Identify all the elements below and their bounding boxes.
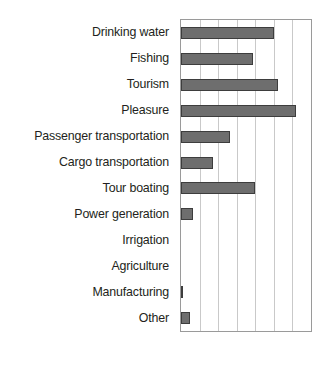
bar-row [181, 46, 311, 72]
category-label-agriculture: Agriculture [111, 260, 169, 273]
bar-row [181, 98, 311, 124]
category-label-fishing: Fishing [130, 52, 169, 65]
category-label-row: Tour boating [0, 175, 175, 201]
category-label-row: Manufacturing [0, 280, 175, 306]
category-label-tourism: Tourism [127, 78, 169, 91]
category-label-row: Passenger transportation [0, 123, 175, 149]
bar-chart-figure: Drinking water Fishing Tourism Pleasure … [0, 0, 331, 369]
gridline [311, 20, 312, 331]
plot-area [180, 19, 312, 332]
category-label-irrigation: Irrigation [122, 234, 169, 247]
category-label-row: Fishing [0, 45, 175, 71]
category-label-row: Pleasure [0, 97, 175, 123]
bar-row [181, 176, 311, 202]
bar-cargo-transportation [181, 157, 213, 169]
category-label-row: Tourism [0, 71, 175, 97]
category-label-power-generation: Power generation [74, 208, 169, 221]
bar-row [181, 124, 311, 150]
bar-row [181, 305, 311, 331]
category-label-passenger-transportation: Passenger transportation [34, 130, 169, 143]
category-label-row: Other [0, 306, 175, 332]
category-label-other: Other [139, 312, 169, 325]
bar-pleasure [181, 105, 296, 117]
category-label-row: Irrigation [0, 228, 175, 254]
bar-row [181, 150, 311, 176]
category-label-manufacturing: Manufacturing [92, 286, 169, 299]
bar-power-generation [181, 208, 193, 220]
bar-row [181, 20, 311, 46]
bar-row [181, 253, 311, 279]
category-label-row: Power generation [0, 202, 175, 228]
bar-passenger-transportation [181, 131, 230, 143]
bar-row [181, 201, 311, 227]
category-axis-labels: Drinking water Fishing Tourism Pleasure … [0, 19, 175, 332]
category-label-tour-boating: Tour boating [103, 182, 169, 195]
bar-tourism [181, 79, 278, 91]
bars-layer [181, 20, 311, 331]
bar-fishing [181, 53, 253, 65]
category-label-row: Drinking water [0, 19, 175, 45]
category-label-pleasure: Pleasure [121, 104, 169, 117]
category-label-row: Cargo transportation [0, 149, 175, 175]
bar-other [181, 312, 190, 324]
bar-row [181, 279, 311, 305]
bar-row [181, 227, 311, 253]
bar-drinking-water [181, 27, 274, 39]
category-label-cargo-transportation: Cargo transportation [59, 156, 169, 169]
category-label-drinking-water: Drinking water [92, 26, 169, 39]
bar-row [181, 72, 311, 98]
bar-tour-boating [181, 182, 255, 194]
bar-manufacturing [181, 286, 183, 298]
category-label-row: Agriculture [0, 254, 175, 280]
